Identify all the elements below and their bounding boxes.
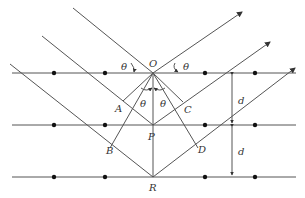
atom-dot	[203, 71, 207, 75]
atom-dot	[253, 71, 257, 75]
label-theta-right: θ	[183, 61, 189, 72]
bragg-diagram: O P R A B C D θ θ θ θ d d	[0, 0, 305, 198]
label-theta-left: θ	[121, 61, 127, 72]
atom-dot	[253, 175, 257, 179]
perpendicular-OA	[123, 73, 153, 101]
atom-dot	[52, 71, 56, 75]
atom-dot	[103, 175, 107, 179]
label-theta-inner-left: θ	[140, 98, 146, 109]
label-P: P	[147, 131, 155, 142]
incident-ray-P	[42, 36, 153, 125]
label-D: D	[197, 144, 206, 155]
label-R: R	[148, 182, 157, 193]
atom-dot	[253, 123, 257, 127]
label-d-lower: d	[238, 146, 244, 157]
reflected-ray-P	[153, 42, 270, 125]
reflected-rays	[153, 12, 295, 177]
label-C: C	[184, 104, 192, 115]
atom-dot	[103, 123, 107, 127]
incident-ray-R	[10, 64, 153, 177]
reflected-ray-O	[153, 12, 242, 73]
atom-dot	[52, 175, 56, 179]
incident-ray-O	[73, 8, 153, 73]
atom-dot	[203, 175, 207, 179]
label-O: O	[149, 58, 157, 69]
atom-dot	[203, 123, 207, 127]
reflected-ray-R	[153, 68, 295, 177]
label-theta-inner-right: θ	[160, 98, 166, 109]
label-A: A	[114, 103, 122, 114]
label-B: B	[105, 145, 113, 156]
atom-dot	[52, 123, 56, 127]
label-d-upper: d	[238, 95, 244, 106]
angle-arc-left-icon	[131, 63, 134, 72]
atom-dot	[103, 71, 107, 75]
angle-arc-inner-left-icon	[141, 88, 152, 90]
angle-arc-right-icon	[174, 63, 178, 72]
